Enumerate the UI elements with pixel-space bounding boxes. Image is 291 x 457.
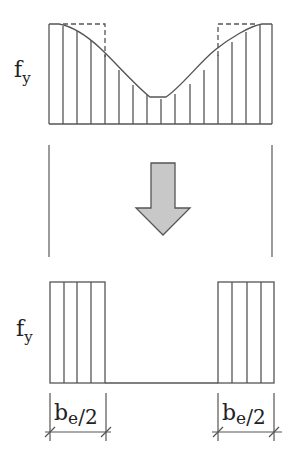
right-stress-block <box>218 282 274 383</box>
right-be2-label: be/2 <box>222 400 266 429</box>
left-equivalent-block <box>63 24 105 57</box>
bottom-fy-label: fy <box>16 316 33 346</box>
stress-curve <box>49 24 272 97</box>
top-fy-label: fy <box>14 57 31 87</box>
down-arrow-icon <box>136 163 190 235</box>
right-equivalent-block <box>218 24 258 56</box>
effective-width-diagram: fy fy be/2 be/2 <box>0 0 291 457</box>
bottom-stress-distribution <box>50 282 274 383</box>
top-stress-distribution <box>49 24 272 124</box>
left-be2-label: be/2 <box>54 400 98 429</box>
